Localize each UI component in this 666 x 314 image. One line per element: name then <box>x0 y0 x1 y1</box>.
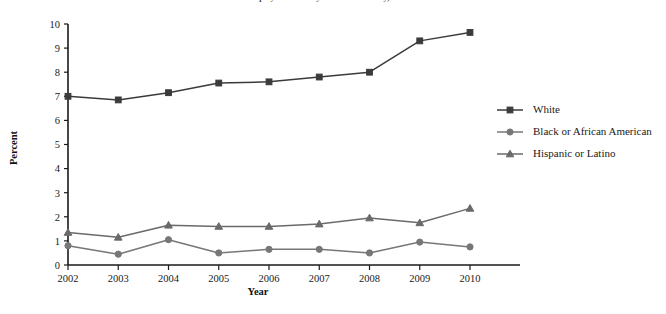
y-tick-label: 8 <box>55 67 60 78</box>
legend-label: Hispanic or Latino <box>533 147 616 159</box>
data-point-marker <box>115 97 121 103</box>
data-point-marker <box>467 244 473 250</box>
x-tick-label: 2009 <box>409 273 430 284</box>
data-point-marker <box>166 90 172 96</box>
y-tick-label: 1 <box>55 236 60 247</box>
x-tick-label: 2010 <box>460 273 481 284</box>
legend-marker-icon <box>507 129 513 135</box>
y-tick-label: 7 <box>55 91 60 102</box>
chart-legend: WhiteBlack or African AmericanHispanic o… <box>497 103 652 159</box>
x-tick-label: 2002 <box>58 273 79 284</box>
y-tick-label: 9 <box>55 43 60 54</box>
series-white <box>65 30 473 103</box>
data-point-marker <box>316 246 322 252</box>
x-axis-title: Year <box>248 286 269 297</box>
y-axis-title: Percent <box>8 130 19 165</box>
legend-item-hispanic-or-latino[interactable]: Hispanic or Latino <box>497 147 616 159</box>
data-point-marker <box>266 79 272 85</box>
x-tick-label: 2004 <box>158 273 180 284</box>
y-tick-label: 10 <box>50 19 61 30</box>
data-point-marker <box>466 205 474 212</box>
data-point-marker <box>65 93 71 99</box>
legend-label: White <box>533 103 560 115</box>
y-tick-label: 4 <box>55 163 61 174</box>
data-point-marker <box>417 239 423 245</box>
data-point-marker <box>165 237 171 243</box>
x-tick-label: 2003 <box>108 273 129 284</box>
data-point-marker <box>366 250 372 256</box>
data-point-marker <box>316 74 322 80</box>
data-point-marker <box>467 30 473 36</box>
x-axis: 200220032004200520062007200820092010 <box>58 265 521 284</box>
y-tick-label: 3 <box>55 188 60 199</box>
series-hispanic-or-latino <box>64 205 474 241</box>
legend-label: Black or African American <box>533 125 652 137</box>
data-point-marker <box>216 250 222 256</box>
chart-container: Unemployment rate by race and ethnicity,… <box>0 0 666 314</box>
line-chart-plot: 012345678910 200220032004200520062007200… <box>0 0 666 314</box>
data-series-group <box>64 30 474 258</box>
y-tick-label: 5 <box>55 139 60 150</box>
y-tick-label: 6 <box>55 115 60 126</box>
data-point-marker <box>266 246 272 252</box>
series-black-or-african-american <box>65 237 473 258</box>
x-tick-label: 2007 <box>309 273 330 284</box>
legend-marker-icon <box>507 107 513 113</box>
x-tick-label: 2005 <box>208 273 229 284</box>
y-tick-label: 0 <box>55 260 60 271</box>
y-tick-label: 2 <box>55 212 60 223</box>
data-point-marker <box>115 251 121 257</box>
data-point-marker <box>216 80 222 86</box>
data-point-marker <box>417 38 423 44</box>
x-tick-label: 2006 <box>259 273 280 284</box>
x-tick-label: 2008 <box>359 273 380 284</box>
data-point-marker <box>367 69 373 75</box>
series-line <box>68 32 470 99</box>
legend-item-black-or-african-american[interactable]: Black or African American <box>497 125 652 137</box>
legend-item-white[interactable]: White <box>497 103 560 115</box>
data-point-marker <box>65 243 71 249</box>
